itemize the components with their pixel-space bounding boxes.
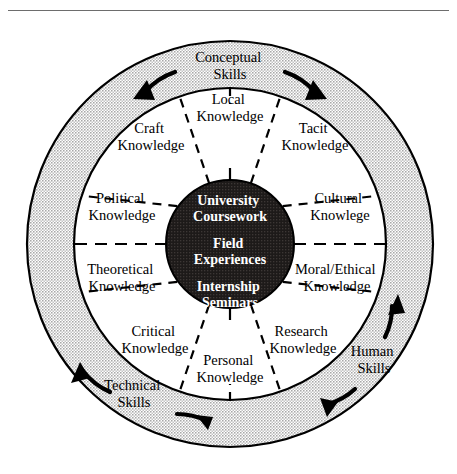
core-labels: University Coursework Field Experiences … [193, 193, 267, 310]
label-political-knowledge: Political Knowledge [89, 190, 156, 223]
concentric-circle-diagram: Conceptual Skills Human Skills Technical… [0, 0, 457, 474]
label-critical-knowledge: Critical Knowledge [122, 323, 189, 356]
figure-canvas: Conceptual Skills Human Skills Technical… [0, 0, 457, 474]
label-internship-seminars: Internship Seminars [197, 279, 264, 310]
label-cultural-knowledge: Cultural Knowlege [310, 190, 370, 223]
label-moral-ethical-knowledge: Moral/Ethical Knowledge [295, 261, 379, 294]
label-university-coursework: University Coursework [193, 193, 267, 224]
label-human-skills: Human Skills [351, 343, 397, 376]
label-theoretical-knowledge: Theoretical Knowledge [87, 261, 157, 294]
label-research-knowledge: Research Knowledge [270, 323, 337, 356]
label-personal-knowledge: Personal Knowledge [197, 352, 264, 385]
